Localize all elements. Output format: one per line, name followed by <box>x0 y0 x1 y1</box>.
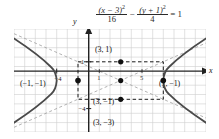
label-point-neg1-neg1: (−1, −1) <box>20 79 46 88</box>
fraction-left-denominator: 16 <box>105 15 118 24</box>
point-3-neg1 <box>118 78 123 83</box>
fraction-left-numerator: (x − 3)2 <box>96 4 127 15</box>
exponent-2-left: 2 <box>122 4 125 10</box>
fraction-right-numerator: (y + 1)2 <box>137 4 168 15</box>
x-tick-label-5: 5 <box>140 74 143 81</box>
hyperbola-figure: (x − 3)2 16 − (y + 1)2 4 = 1 <box>0 0 219 139</box>
equals-one: = 1 <box>170 9 182 19</box>
fraction-right: (y + 1)2 4 <box>137 4 168 25</box>
y-axis-label: y <box>73 17 77 26</box>
point-neg1-neg1 <box>75 78 81 84</box>
y-tick-label-neg4: −4 <box>79 105 87 112</box>
exponent-2-right: 2 <box>163 4 166 10</box>
x-tick-label-1: 1 <box>97 74 100 81</box>
fraction-right-denominator: 4 <box>148 15 156 24</box>
label-point-7-neg1: (7, −1) <box>159 79 180 88</box>
label-point-3-1: (3, 1) <box>95 45 112 54</box>
point-3-1 <box>118 59 123 64</box>
y-tick-label-1: 1 <box>81 58 84 65</box>
point-3-neg3 <box>118 97 123 102</box>
minus-operator: − <box>130 9 135 19</box>
label-point-3-neg1: (3, −1) <box>93 97 114 106</box>
label-point-3-neg3: (3, −3) <box>93 118 114 127</box>
fraction-left: (x − 3)2 16 <box>96 4 127 25</box>
equation-caption: (x − 3)2 16 − (y + 1)2 4 = 1 <box>64 1 214 27</box>
x-axis-label: x <box>209 66 213 75</box>
